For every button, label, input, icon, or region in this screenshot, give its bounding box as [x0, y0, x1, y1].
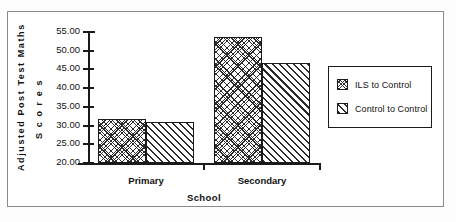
- y-axis-tick-label: 35.00: [38, 101, 80, 111]
- legend-item-control-to-control: Control to Control: [337, 103, 427, 114]
- x-axis-tick: [203, 163, 205, 170]
- legend-label-control-to-control: Control to Control: [355, 104, 427, 114]
- y-axis-tick-label: 25.00: [38, 138, 80, 148]
- bar: [214, 37, 262, 163]
- y-axis-tick-labels: 55.0050.0045.0040.0035.0030.0025.0020.00: [36, 0, 80, 222]
- y-axis-tick-label: 40.00: [38, 82, 80, 92]
- plot-area: [88, 32, 320, 163]
- x-axis-category-label: Primary: [96, 175, 196, 186]
- legend-item-ils-to-control: ILS to Control: [337, 79, 411, 90]
- y-axis-tick-label: 55.00: [38, 26, 80, 36]
- y-axis-tick-label: 20.00: [38, 157, 80, 167]
- y-axis-tick-label: 45.00: [38, 63, 80, 73]
- legend-swatch-diagonal-icon: [337, 103, 348, 114]
- y-axis-tick-label: 30.00: [38, 120, 80, 130]
- y-axis-tick-label: 50.00: [38, 45, 80, 55]
- bar: [262, 63, 310, 163]
- legend-swatch-crosshatch-icon: [337, 79, 348, 90]
- bar: [98, 119, 146, 163]
- bar: [146, 122, 194, 163]
- x-axis-line: [78, 163, 321, 165]
- y-axis-title-line-1: Adjusted Post Test Maths: [16, 22, 26, 172]
- figure-container: Adjusted Post Test Maths S c o r e s 55.…: [0, 0, 456, 222]
- x-axis-title: School: [88, 192, 320, 203]
- legend-label-ils-to-control: ILS to Control: [355, 80, 411, 90]
- x-axis-category-label: Secondary: [212, 175, 312, 186]
- x-axis-tick: [319, 163, 321, 170]
- legend-box: ILS to Control Control to Control: [328, 66, 432, 128]
